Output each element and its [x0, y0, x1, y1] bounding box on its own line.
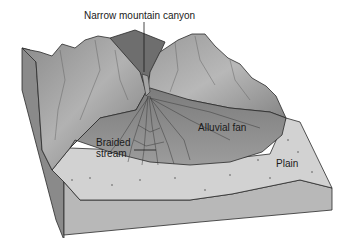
label-plain: Plain: [276, 158, 298, 169]
block-diagram-illustration: [0, 0, 364, 238]
alluvial-fan-diagram: Narrow mountain canyon Alluvial fan Brai…: [0, 0, 364, 238]
label-narrow-mountain-canyon: Narrow mountain canyon: [84, 10, 195, 21]
label-stream: stream: [96, 148, 127, 159]
label-alluvial-fan: Alluvial fan: [198, 122, 246, 133]
label-braided: Braided: [96, 137, 130, 148]
